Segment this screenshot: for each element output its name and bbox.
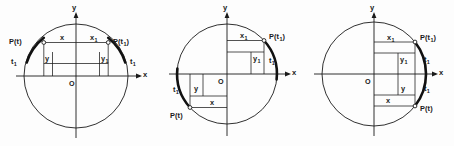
arc-label-lower: t1 [424,85,430,92]
segment-label-y1-sub: 1 [257,58,260,64]
point-label-pt: P(t) [9,38,22,45]
segment-label-y1-sub: 1 [404,59,407,65]
y-axis-label: y [223,4,227,12]
point-label-pt: P(t) [420,105,433,112]
arc-label-upper-sub: 1 [427,59,430,65]
arc-label-upper: t1 [424,56,430,63]
unit-circle-diagram-3: y x O P(t1) P(t) t1 t1 x1 y1 y x [302,0,454,146]
segment-label-x1: x1 [240,32,248,39]
point-marker-pt [413,104,417,108]
arc-label-left-sub: 1 [176,89,179,95]
point-label-pt1-base: P(t [113,37,123,46]
y-axis-label: y [370,4,374,12]
point-label-pt1: P(t1) [420,34,436,41]
segment-label-y1: y1 [101,55,109,62]
x-axis-arrowhead-icon [285,72,291,77]
bold-arc-left [27,38,44,63]
x-axis-arrowhead-icon [136,74,142,79]
point-marker-pt [188,106,192,110]
segment-label-y: y [194,85,198,92]
segment-label-x1: x1 [90,34,98,41]
arc-label-right-sub: 1 [272,60,275,66]
point-label-pt: P(t) [170,112,183,119]
point-label-pt1-sub: 1 [430,37,433,43]
segment-label-y1-sub: 1 [105,58,108,64]
x-axis-label: x [292,69,296,77]
arc-label-left: t1 [11,58,17,65]
origin-label: O [69,80,75,87]
arc-label-right: t1 [269,57,275,64]
arc-label-right-sub: 1 [133,61,136,67]
diagram-1-canvas [0,0,151,146]
point-marker-pt [42,41,46,45]
segment-label-x1-sub: 1 [94,37,97,43]
y-axis-arrowhead-icon [74,12,79,18]
segment-label-x1: x1 [387,34,395,41]
segment-label-y: y [401,85,405,92]
x-axis-label: x [439,69,443,77]
point-marker-pt1 [106,41,110,45]
segment-label-x: x [60,34,64,41]
segment-label-y: y [45,55,49,62]
arc-label-right: t1 [130,58,136,65]
segment-label-x: x [386,97,390,104]
unit-circle-diagram-2: y x O P(t1) P(t) t1 t1 x1 y1 y x [151,0,302,146]
point-label-pt1-base: P(t [420,33,430,42]
x-axis-label: x [143,71,147,79]
segment-label-x1-sub: 1 [391,37,394,43]
segment-label-y1: y1 [400,56,408,63]
point-label-pt1-sub: 1 [123,41,126,47]
arc-label-left-sub: 1 [14,61,17,67]
point-label-pt1-base: P(t [269,32,279,41]
point-label-pt1: P(t1) [113,38,129,45]
diagram-2-canvas [151,0,302,146]
point-marker-pt1 [413,40,417,44]
point-label-pt1-sub: 1 [279,36,282,42]
segment-label-y1: y1 [253,55,261,62]
unit-circle-figure-row: y x O P(t) P(t1) t1 t1 x x1 y y1 [0,0,454,146]
y-axis-arrowhead-icon [372,12,377,18]
y-axis-arrowhead-icon [225,12,230,18]
point-label-pt1: P(t1) [269,33,285,40]
unit-circle-diagram-1: y x O P(t) P(t1) t1 t1 x x1 y y1 [0,0,151,146]
segment-label-x: x [210,99,214,106]
arc-label-left: t1 [173,86,179,93]
origin-label: O [365,78,371,85]
point-marker-pt1 [262,39,266,43]
arc-label-lower-sub: 1 [427,88,430,94]
segment-label-x1-sub: 1 [244,35,247,41]
diagram-3-canvas [302,0,454,146]
x-axis-arrowhead-icon [432,72,438,77]
y-axis-label: y [72,4,76,12]
origin-label: O [218,78,224,85]
